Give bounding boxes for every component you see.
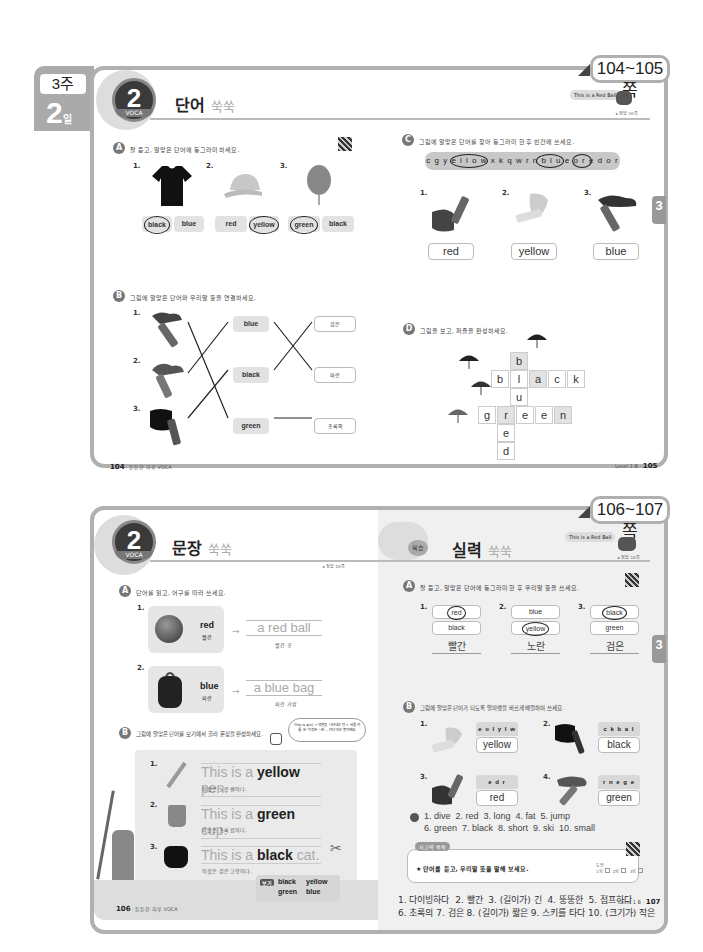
cup-icon <box>168 805 186 827</box>
page-range-arrow <box>578 506 590 518</box>
match-word[interactable]: blue <box>233 316 269 332</box>
arrow-icon: → <box>232 626 240 636</box>
crayon-red-icon <box>430 192 474 236</box>
choice-box[interactable]: black <box>432 621 481 635</box>
scramble-label: e o l y l w <box>476 722 518 736</box>
answer-box[interactable]: yellow <box>476 737 518 753</box>
section-d-instruction: 그림을 보고, 퍼즐을 완성하세요. <box>420 326 508 335</box>
choice-box[interactable]: green <box>590 621 639 635</box>
puzzle-cell[interactable]: l <box>510 370 528 388</box>
scramble-label: e d r <box>476 775 518 789</box>
choice-chip[interactable]: red <box>215 216 247 232</box>
answer-ref: ▸ 정답 10쪽 <box>616 110 638 116</box>
puzzle-cell[interactable]: n <box>554 406 572 424</box>
match-meaning[interactable]: 파란 <box>314 367 356 383</box>
puzzle-cell[interactable]: g <box>478 406 496 424</box>
speaking-instruction: ★ 단어를 듣고, 우리말 뜻을 말해 보세요. <box>416 864 528 873</box>
meaning-line[interactable]: 노란 <box>511 638 560 654</box>
word-bank: 보기 black yellow green blue <box>256 875 340 901</box>
answer-box[interactable]: yellow <box>511 243 557 260</box>
crayon-black-icon <box>148 407 188 447</box>
match-meaning[interactable]: 초록의 <box>314 418 356 434</box>
qr-code-icon <box>338 137 352 151</box>
qr-code-icon <box>626 842 640 856</box>
trace-phrase[interactable]: a blue bag <box>246 680 322 696</box>
answer-box[interactable]: red <box>476 790 518 806</box>
puzzle-cell[interactable]: k <box>567 370 585 388</box>
cat-icon <box>164 846 188 868</box>
page-title: 문장쑥쑥 <box>172 535 232 559</box>
tshirt-icon <box>152 164 192 206</box>
answer-box[interactable]: blue <box>593 243 639 260</box>
scramble-label: c k b a l <box>598 722 640 736</box>
unit-side-tab[interactable]: 3 <box>652 635 666 663</box>
match-meaning[interactable]: 검은 <box>314 316 356 332</box>
pencil-icon <box>165 760 189 790</box>
header-line <box>150 118 650 120</box>
crayon-red-icon <box>430 772 470 808</box>
right-page-title: 실력쑥쑥 <box>452 537 512 561</box>
answer-box[interactable]: black <box>598 737 640 753</box>
answer-box[interactable]: red <box>428 243 474 260</box>
puzzle-cell[interactable]: e <box>497 424 515 442</box>
match-word[interactable]: black <box>233 367 269 383</box>
checkbox[interactable] <box>638 868 643 873</box>
puzzle-cell[interactable]: u <box>510 388 528 406</box>
scramble-label: r n e g e <box>598 775 640 789</box>
korean-answers-line-1: 1. 다이빙하다 2. 빨간 3. (길이가) 긴 4. 뚱뚱한 5. 점프하다 <box>398 893 632 906</box>
answer-box[interactable]: green <box>598 790 640 806</box>
sentence[interactable]: This is a green cup. <box>201 805 321 839</box>
sentence[interactable]: This is a black cat. <box>201 846 321 864</box>
choice-chip[interactable]: yellow <box>249 216 279 232</box>
choice-chip[interactable]: black <box>322 216 354 232</box>
page-range-arrow <box>578 64 590 76</box>
crayon-black-icon <box>553 722 589 758</box>
page-range-tab: 104~105쪽 <box>590 55 670 83</box>
choice-box[interactable]: yellow <box>511 621 560 635</box>
section-a-marker: A <box>119 585 131 597</box>
card-meaning: 빨간 <box>202 633 212 640</box>
choice-box[interactable]: red <box>432 605 481 619</box>
puzzle-cell[interactable]: c <box>548 370 566 388</box>
section-c-marker: C <box>402 134 414 146</box>
week-label: 3주 <box>40 74 86 94</box>
choice-chip[interactable]: green <box>288 216 320 232</box>
puzzle-cell[interactable]: b <box>491 370 509 388</box>
backpack-icon <box>155 670 185 710</box>
sentence-meaning: 이것은 초록 컵이다. <box>202 826 247 833</box>
day-number: 2일 <box>46 96 72 130</box>
crayon-green-icon <box>553 772 593 808</box>
puzzle-cell[interactable]: b <box>510 352 528 370</box>
trace-phrase[interactable]: a red ball <box>246 620 322 636</box>
page-title: 단어쑥쑥 <box>175 92 235 116</box>
meaning-line[interactable]: 빨간 <box>432 638 481 654</box>
match-word[interactable]: green <box>233 418 269 434</box>
section-a-instruction: 잘 듣고, 알맞은 단어에 동그라미 한 후 우리말 뜻을 쓰세요. <box>420 583 579 592</box>
choice-chip[interactable]: blue <box>174 216 204 232</box>
checkbox[interactable] <box>621 868 626 873</box>
unit-side-tab[interactable]: 3 <box>652 196 666 224</box>
choice-box[interactable]: black <box>590 605 639 619</box>
checkbox[interactable] <box>605 868 610 873</box>
puzzle-cell[interactable]: e <box>535 406 553 424</box>
umbrella-icon <box>526 331 548 349</box>
puzzle-cell[interactable]: a <box>529 370 547 388</box>
red-ball-icon <box>155 615 183 643</box>
crayon-green-icon <box>150 360 186 400</box>
character-icon <box>618 537 636 551</box>
answer-ref: ▸ 정답 10쪽 <box>618 554 640 560</box>
puzzle-cell[interactable]: d <box>497 442 515 460</box>
footer-left: 106 · 튼튼한 하루 VOCA <box>116 905 178 913</box>
puzzle-cell[interactable]: e <box>516 406 534 424</box>
choice-chip[interactable]: black <box>142 216 172 232</box>
section-b-instruction: 그림에 알맞은 단어와 우리말 뜻을 연결하세요. <box>130 293 255 302</box>
meaning-line[interactable]: 검은 <box>590 638 639 654</box>
puzzle-cell[interactable]: r <box>497 406 515 424</box>
tip-bubble: This is a(n) + 색깔을 나타내는 말 + 사물 이름. 은 '이것… <box>288 718 366 742</box>
review-badge: 복습 <box>408 540 428 556</box>
day-badge: 2 VOCA <box>112 520 156 564</box>
footer-right: Level 1 B · 107 <box>618 898 660 906</box>
section-a-marker: A <box>403 580 415 592</box>
korean-answers-line-2: 6. 초록의 7. 검은 8. (길이가) 짧은 9. 스키를 타다 10. (… <box>398 906 655 919</box>
choice-box[interactable]: blue <box>511 605 560 619</box>
